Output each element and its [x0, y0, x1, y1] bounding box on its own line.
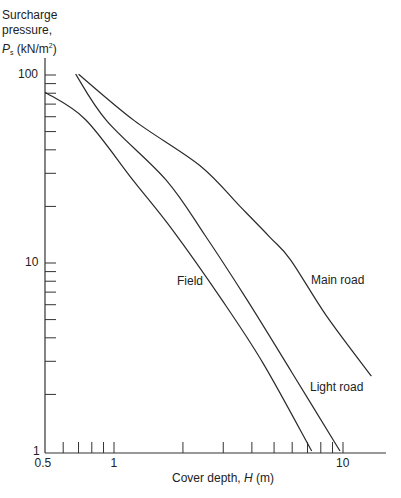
x-axis-text: Cover depth, [172, 471, 244, 485]
x-axis-label: Cover depth, H (m) [172, 471, 274, 485]
curve-main-road [79, 74, 372, 376]
curves [45, 74, 371, 451]
x-tick-label: 10 [336, 456, 349, 470]
series-label-main-road: Main road [311, 273, 364, 287]
chart-plot [0, 0, 401, 498]
series-label-field: Field [177, 274, 203, 288]
x-axis-symbol: H [244, 471, 253, 485]
series-label-light-road: Light road [310, 380, 363, 394]
curve-light-road [76, 74, 340, 451]
curve-field [45, 92, 312, 451]
y-tick-label: 10 [25, 255, 38, 269]
x-axis-unit: (m) [253, 471, 274, 485]
y-tick-label: 100 [18, 67, 38, 81]
x-tick-label: 0.5 [35, 456, 52, 470]
x-tick-label: 1 [111, 456, 118, 470]
